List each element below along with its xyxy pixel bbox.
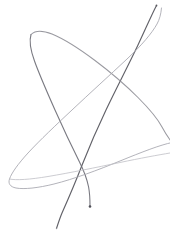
sketch-drawing-surface: [0, 0, 170, 244]
canvas-background: [0, 0, 170, 244]
endpoint-end-bottom-center: [89, 205, 92, 208]
endpoint-end-bottom-left: [56, 228, 57, 229]
sketch-canvas: [0, 0, 170, 244]
endpoint-start-top-right: [156, 5, 158, 7]
